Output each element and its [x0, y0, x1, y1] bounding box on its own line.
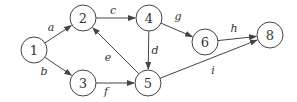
edge-b-arrow [45, 57, 72, 75]
node-5: 5 [135, 70, 161, 96]
edge-label-g: g [174, 10, 181, 23]
edge-label-i: i [211, 64, 215, 77]
node-label: 8 [266, 28, 274, 43]
edge-h-arrow [218, 36, 256, 40]
node-3: 3 [70, 70, 96, 96]
node-label: 4 [145, 11, 153, 26]
node-label: 2 [79, 11, 87, 26]
edge-g-arrow [161, 23, 192, 36]
node-1: 1 [21, 37, 47, 63]
edge-e-arrow [93, 28, 139, 74]
edge-label-a: a [48, 21, 55, 34]
node-2: 2 [70, 5, 96, 31]
node-6: 6 [192, 29, 218, 55]
edge-label-f: f [103, 85, 110, 98]
graph-svg: 1234568 abcefdghi [0, 0, 297, 102]
edge-label-h: h [230, 22, 237, 35]
node-label: 6 [201, 35, 209, 50]
node-label: 3 [79, 76, 87, 91]
node-label: 1 [30, 43, 38, 58]
node-label: 5 [144, 76, 152, 91]
node-8: 8 [257, 22, 283, 48]
edge-label-d: d [151, 44, 158, 57]
node-4: 4 [136, 5, 162, 31]
graph-diagram: 1234568 abcefdghi [0, 0, 297, 102]
edge-label-c: c [110, 4, 116, 17]
edge-label-e: e [105, 51, 112, 64]
edge-label-b: b [40, 65, 47, 78]
edge-d-arrow [148, 31, 149, 69]
